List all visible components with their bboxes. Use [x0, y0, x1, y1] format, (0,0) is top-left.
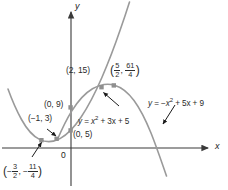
marker-vertex-up [39, 138, 43, 142]
equation-rest: + 5x + 9 [173, 99, 204, 108]
fraction-five-halves: 52 [114, 62, 120, 79]
label-point-2-15: (2, 15) [66, 66, 90, 75]
fraction-numerator: 5 [114, 62, 120, 70]
marker-point-2-15 [99, 85, 103, 89]
fraction-numerator: 11 [28, 163, 37, 171]
leader-arrow-point-neg1-3 [47, 129, 56, 136]
origin-label: 0 [61, 151, 66, 160]
paren-close: ) [136, 63, 140, 77]
label-vertex-up-fraction: (−32, −114) [3, 163, 42, 180]
fraction-numerator: 61 [125, 62, 135, 70]
equation-rest: + 3x + 5 [98, 117, 129, 126]
fraction-numerator: 3 [12, 163, 18, 171]
fraction-eleven-quarters: 114 [28, 163, 37, 180]
equation-label-parabola-up: y = x2 + 3x + 5 [78, 115, 129, 126]
equation-equals: = [152, 99, 161, 108]
x-axis-label: x [215, 142, 219, 151]
minus-sign-y: − [23, 166, 28, 176]
fraction-three-halves: 32 [12, 163, 18, 180]
label-vertex-down-fraction: (52, 614) [110, 62, 140, 79]
paren-close: ) [38, 164, 42, 178]
equation-label-parabola-down: y = −x2 + 5x + 9 [148, 97, 204, 108]
leader-arrow-equation-up [104, 93, 120, 107]
fraction-denominator: 4 [28, 171, 37, 180]
fraction-denominator: 4 [125, 70, 135, 79]
label-point-0-5: (0, 5) [73, 130, 92, 139]
leader-arrow-vertex-up [32, 143, 42, 158]
minus-sign-x: − [7, 166, 12, 176]
equation-equals: = [82, 117, 91, 126]
fraction-denominator: 2 [12, 171, 18, 180]
fraction-sixtyone-quarters: 614 [125, 62, 135, 79]
math-figure: y x 0 (2, 15) (0, 9) (−1, 3) (0, 5) (52,… [0, 0, 228, 190]
fraction-denominator: 2 [114, 70, 120, 79]
y-axis-label: y [75, 2, 79, 11]
marker-vertex-down [112, 83, 116, 87]
marker-point-0-9 [68, 105, 72, 109]
label-point-0-9: (0, 9) [44, 100, 63, 109]
marker-point-neg1-3 [54, 137, 58, 141]
label-point-neg1-3: (−1, 3) [28, 114, 52, 123]
